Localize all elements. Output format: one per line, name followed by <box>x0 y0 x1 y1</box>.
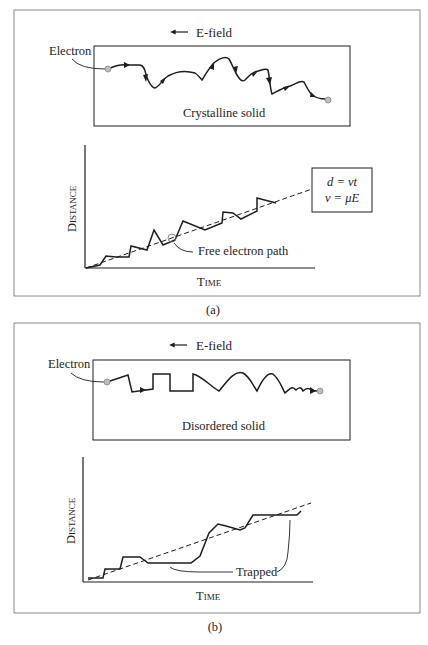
trap-leader-left <box>170 567 233 572</box>
electron-label: Electron <box>48 357 91 371</box>
caption-a: (a) <box>206 303 220 317</box>
caption-b: (b) <box>208 620 223 634</box>
solid-label: Disordered solid <box>182 419 266 433</box>
electron-end-icon <box>317 388 323 394</box>
electron-start-icon <box>105 66 111 72</box>
efield-label: E-field <box>196 25 233 40</box>
electron-trajectory <box>108 58 326 99</box>
equation-2: v = μE <box>325 191 360 205</box>
trap-label: Trapped <box>236 565 278 579</box>
x-axis-label: Time <box>196 589 221 603</box>
efield-label: E-field <box>196 338 233 353</box>
electron-leader <box>72 59 105 69</box>
trap-leader-right <box>277 520 290 572</box>
electron-end-icon <box>325 97 331 103</box>
y-axis-label: Distance <box>64 497 78 544</box>
solid-label: Crystalline solid <box>183 106 266 120</box>
trajectory-arrowheads <box>124 62 316 97</box>
trajectory-arrowheads <box>140 387 316 394</box>
x-axis-label: Time <box>197 275 222 289</box>
electron-label: Electron <box>49 44 92 58</box>
electron-trajectory <box>107 372 318 393</box>
panel-b: E-field Electron Disordered solid Distan… <box>14 323 420 634</box>
path-label: Free electron path <box>198 244 289 258</box>
electron-start-icon <box>104 379 110 385</box>
electron-leader <box>71 373 104 382</box>
figure-canvas: E-field Electron Crystalline solid Dista… <box>0 0 428 645</box>
panel-a: E-field Electron Crystalline solid Dista… <box>14 10 420 317</box>
equation-1: d = vt <box>327 175 357 189</box>
path-label-leader <box>174 243 193 252</box>
y-axis-label: Distance <box>65 185 79 232</box>
